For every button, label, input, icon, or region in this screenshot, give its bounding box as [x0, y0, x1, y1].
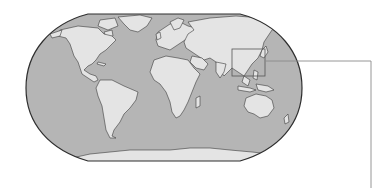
world-map [0, 0, 392, 188]
